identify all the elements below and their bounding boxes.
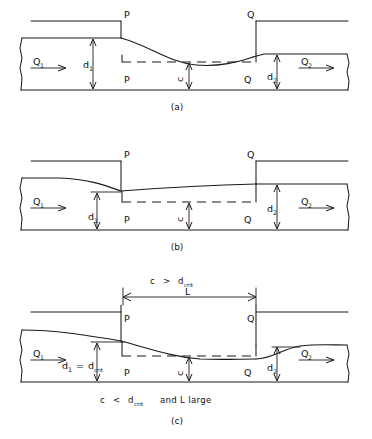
panel-c-condition-below-var: d bbox=[128, 395, 134, 405]
panel-c-right-break-edge bbox=[347, 345, 349, 382]
panel-b-right-break-edge bbox=[347, 184, 349, 230]
panel-b-q1-subscript: 1 bbox=[40, 202, 44, 209]
panel-b-d2-subscript: 2 bbox=[273, 209, 277, 216]
panel-a-point-p-top: P bbox=[124, 9, 130, 20]
panel-b-left-break-edge bbox=[20, 178, 22, 230]
panel-c-point-p-bottom: P bbox=[124, 367, 130, 378]
panel-a-c-label: c bbox=[174, 77, 185, 82]
panel-a-q1-subscript: 1 bbox=[40, 62, 44, 69]
panel-b-hump-rising-surface bbox=[121, 184, 256, 191]
panel-a-labels: Q 1 Q 2 d 1 d 2 c P Q P Q (a) bbox=[33, 9, 312, 112]
panel-c-labels: c > d crit L Q 1 Q 2 d 1 = d crit d 2 c … bbox=[33, 276, 312, 426]
panel-c-point-q-top: Q bbox=[247, 313, 254, 324]
panel-b-c-label: c bbox=[174, 217, 185, 222]
panel-c-condition-below-symbol: c bbox=[100, 395, 105, 405]
panel-b-upstream-drawdown-surface bbox=[22, 178, 121, 191]
panel-c-dcrit-subscript: crit bbox=[94, 367, 103, 373]
panel-b-labels: Q 1 Q 2 d 1 d 2 c P Q P Q (b) bbox=[33, 149, 312, 252]
panel-b-point-q-top: Q bbox=[247, 149, 254, 160]
panel-a-q2-subscript: 2 bbox=[308, 62, 312, 69]
panel-b-point-p-top: P bbox=[124, 149, 130, 160]
panel-b-caption: (b) bbox=[171, 242, 184, 252]
panel-c-upstream-surface bbox=[22, 330, 121, 341]
panel-c-condition-below-operator: < bbox=[113, 395, 121, 405]
panel-c-d2-subscript: 2 bbox=[273, 368, 277, 375]
panel-c-point-p-top: P bbox=[124, 313, 130, 324]
panel-a-d2-subscript: 2 bbox=[273, 77, 277, 84]
panel-c-d1-subscript: 1 bbox=[68, 366, 72, 373]
panel-c-c-label: c bbox=[174, 371, 185, 376]
panel-a-point-p-bottom: P bbox=[124, 74, 130, 85]
panel-b-point-p-bottom: P bbox=[124, 214, 130, 225]
panel-c-condition-above-symbol: c bbox=[150, 276, 155, 286]
panel-a-point-q-bottom: Q bbox=[244, 74, 251, 85]
panel-a-left-break-edge bbox=[20, 38, 22, 90]
panel-a-right-break-edge bbox=[347, 54, 349, 90]
panel-c-length-label: L bbox=[185, 286, 191, 297]
panel-c-left-break-edge bbox=[20, 330, 22, 382]
panel-c-q2-subscript: 2 bbox=[308, 354, 312, 361]
hydraulic-flow-figure: Q 1 Q 2 d 1 d 2 c P Q P Q (a) Q 1 Q 2 d … bbox=[0, 0, 372, 439]
panel-c-depth-equals-sign: = bbox=[76, 360, 84, 371]
panel-c-q1-subscript: 1 bbox=[40, 354, 44, 361]
panel-a-point-q-top: Q bbox=[247, 9, 254, 20]
figure-container: Q 1 Q 2 d 1 d 2 c P Q P Q (a) Q 1 Q 2 d … bbox=[0, 0, 372, 439]
panel-c-crest-drawdown-curve bbox=[121, 341, 256, 359]
panel-c-caption: (c) bbox=[171, 416, 183, 426]
panel-c-condition-above-var: d bbox=[178, 276, 184, 286]
panel-b-d1-subscript: 1 bbox=[94, 217, 98, 224]
panel-a-drawdown-curve bbox=[121, 38, 253, 65]
panel-c-point-q-bottom: Q bbox=[244, 367, 251, 378]
panel-b-point-q-bottom: Q bbox=[244, 214, 251, 225]
panel-c-condition-below-extra: and L large bbox=[160, 395, 212, 405]
panel-a-d1-subscript: 1 bbox=[89, 65, 93, 72]
panel-c-condition-below-subscript: crit bbox=[134, 401, 143, 407]
panel-c-condition-above-operator: > bbox=[163, 276, 171, 286]
panel-a-caption: (a) bbox=[171, 102, 184, 112]
panel-b-q2-subscript: 2 bbox=[308, 202, 312, 209]
panel-a-downstream-water-surface bbox=[253, 54, 347, 57]
